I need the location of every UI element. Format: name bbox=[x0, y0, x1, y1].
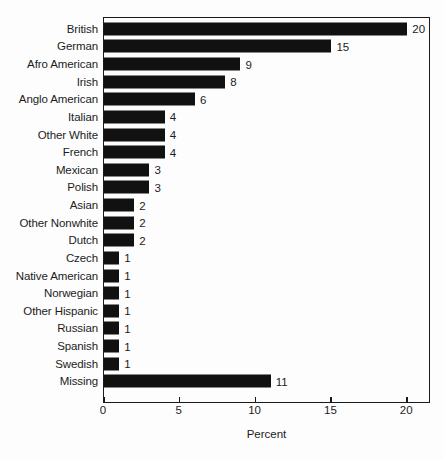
bar-row: Mexican3 bbox=[0, 161, 444, 179]
bar bbox=[104, 181, 149, 194]
bar bbox=[104, 93, 195, 106]
bar bbox=[104, 357, 119, 370]
bar-row: Other White4 bbox=[0, 126, 444, 144]
bar bbox=[104, 75, 225, 88]
bar bbox=[104, 110, 165, 123]
bar-row: German15 bbox=[0, 38, 444, 56]
bar-row: British20 bbox=[0, 20, 444, 38]
bar-and-value: 9 bbox=[104, 58, 252, 71]
bar-row: Other Hispanic1 bbox=[0, 302, 444, 320]
bar-row: Anglo American6 bbox=[0, 91, 444, 109]
bar-row: Afro American9 bbox=[0, 55, 444, 73]
category-label: Mexican bbox=[56, 164, 98, 176]
bar bbox=[104, 146, 165, 159]
bar-and-value: 4 bbox=[104, 110, 176, 123]
bar-value-label: 4 bbox=[170, 129, 176, 141]
bar bbox=[104, 287, 119, 300]
category-label: Dutch bbox=[68, 234, 98, 246]
bar-value-label: 1 bbox=[124, 340, 130, 352]
bar bbox=[104, 304, 119, 317]
bar bbox=[104, 234, 134, 247]
bar-and-value: 1 bbox=[104, 287, 131, 300]
bar-and-value: 15 bbox=[104, 40, 349, 53]
x-tick-label: 0 bbox=[100, 404, 106, 416]
bar-and-value: 3 bbox=[104, 181, 161, 194]
bar-and-value: 11 bbox=[104, 375, 288, 388]
category-label: British bbox=[67, 23, 98, 35]
category-label: Native American bbox=[16, 270, 98, 282]
x-tick-label: 5 bbox=[176, 404, 182, 416]
category-label: Anglo American bbox=[19, 93, 98, 105]
bar-value-label: 11 bbox=[276, 375, 288, 387]
bar-and-value: 2 bbox=[104, 199, 146, 212]
category-label: Russian bbox=[57, 322, 98, 334]
category-label: Afro American bbox=[27, 58, 98, 70]
bar-value-label: 1 bbox=[124, 270, 130, 282]
bar bbox=[104, 58, 240, 71]
category-label: Spanish bbox=[57, 340, 98, 352]
bar-value-label: 1 bbox=[124, 358, 130, 370]
bar-and-value: 6 bbox=[104, 93, 206, 106]
category-label: Other Hispanic bbox=[23, 305, 98, 317]
bar bbox=[104, 375, 271, 388]
bar-row: Native American1 bbox=[0, 267, 444, 285]
bar-row: Swedish1 bbox=[0, 355, 444, 373]
bar-row: Spanish1 bbox=[0, 337, 444, 355]
bar bbox=[104, 199, 134, 212]
bar bbox=[104, 40, 331, 53]
bar-row: Italian4 bbox=[0, 108, 444, 126]
bar-value-label: 1 bbox=[124, 305, 130, 317]
bar-value-label: 3 bbox=[154, 181, 160, 193]
bar-row: Missing11 bbox=[0, 373, 444, 391]
bar bbox=[104, 163, 149, 176]
category-label: Czech bbox=[66, 252, 98, 264]
bar-value-label: 20 bbox=[412, 23, 425, 35]
bar-value-label: 2 bbox=[139, 199, 145, 211]
category-label: German bbox=[57, 40, 98, 52]
x-tick-label: 20 bbox=[400, 404, 413, 416]
bar-and-value: 1 bbox=[104, 322, 131, 335]
bar-and-value: 1 bbox=[104, 357, 131, 370]
bar-and-value: 1 bbox=[104, 304, 131, 317]
bar-and-value: 1 bbox=[104, 251, 131, 264]
bar-value-label: 1 bbox=[124, 252, 130, 264]
bar-and-value: 8 bbox=[104, 75, 237, 88]
bar-row: French4 bbox=[0, 143, 444, 161]
category-label: Other White bbox=[38, 129, 98, 141]
bar-and-value: 1 bbox=[104, 269, 131, 282]
bar-and-value: 1 bbox=[104, 340, 131, 353]
category-label: Missing bbox=[60, 375, 98, 387]
x-tick-label: 10 bbox=[248, 404, 261, 416]
bar-and-value: 4 bbox=[104, 128, 176, 141]
category-label: Italian bbox=[68, 111, 98, 123]
bar-and-value: 2 bbox=[104, 216, 146, 229]
x-tick-label: 15 bbox=[324, 404, 337, 416]
bar-and-value: 4 bbox=[104, 146, 176, 159]
bar-row: Norwegian1 bbox=[0, 284, 444, 302]
bar bbox=[104, 269, 119, 282]
bar bbox=[104, 251, 119, 264]
category-label: Swedish bbox=[55, 358, 98, 370]
bar-value-label: 4 bbox=[170, 111, 176, 123]
category-label: Norwegian bbox=[44, 287, 98, 299]
bar-value-label: 4 bbox=[170, 146, 176, 158]
bar-value-label: 15 bbox=[336, 40, 349, 52]
bar-chart: British20German15Afro American9Irish8Ang… bbox=[0, 0, 444, 459]
bar-and-value: 2 bbox=[104, 234, 146, 247]
bar bbox=[104, 22, 407, 35]
bar bbox=[104, 216, 134, 229]
x-axis-title: Percent bbox=[103, 428, 430, 440]
bar-and-value: 20 bbox=[104, 22, 425, 35]
category-label: Asian bbox=[70, 199, 98, 211]
bar-value-label: 6 bbox=[200, 93, 206, 105]
bar-value-label: 9 bbox=[245, 58, 251, 70]
bar-row: Polish3 bbox=[0, 179, 444, 197]
bar-and-value: 3 bbox=[104, 163, 161, 176]
bar-row: Other Nonwhite2 bbox=[0, 214, 444, 232]
bar bbox=[104, 340, 119, 353]
bar bbox=[104, 128, 165, 141]
bar-row: Dutch2 bbox=[0, 232, 444, 250]
category-label: Polish bbox=[67, 181, 98, 193]
bar-row: Russian1 bbox=[0, 320, 444, 338]
bar-value-label: 8 bbox=[230, 76, 236, 88]
